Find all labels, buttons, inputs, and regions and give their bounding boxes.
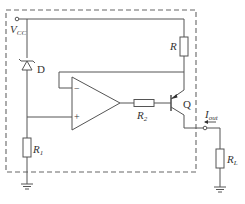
zener-diode-icon bbox=[19, 59, 35, 70]
transistor-q-label: Q bbox=[183, 98, 191, 110]
resistor-r1-icon bbox=[23, 138, 31, 157]
output-terminal bbox=[203, 126, 207, 130]
resistor-r1-label: R1 bbox=[32, 143, 43, 157]
circuit-diagram: VCC D R R1 R2 Q Iout RL − + bbox=[0, 0, 245, 204]
resistor-rl-label: RL bbox=[226, 153, 238, 167]
vcc-terminal bbox=[15, 17, 19, 21]
resistor-r2-icon bbox=[134, 100, 154, 107]
vcc-label: VCC bbox=[10, 23, 26, 37]
opamp-minus-label: − bbox=[74, 83, 80, 94]
opamp-plus-label: + bbox=[74, 111, 80, 122]
iout-label: Iout bbox=[204, 108, 219, 122]
ground-icon bbox=[214, 187, 226, 192]
resistor-r-icon bbox=[180, 37, 188, 56]
resistor-rl-icon bbox=[216, 149, 224, 168]
resistor-r-label: R bbox=[169, 40, 177, 52]
zener-label: D bbox=[37, 63, 45, 75]
resistor-r2-label: R2 bbox=[136, 109, 148, 123]
ground-icon bbox=[21, 184, 33, 189]
